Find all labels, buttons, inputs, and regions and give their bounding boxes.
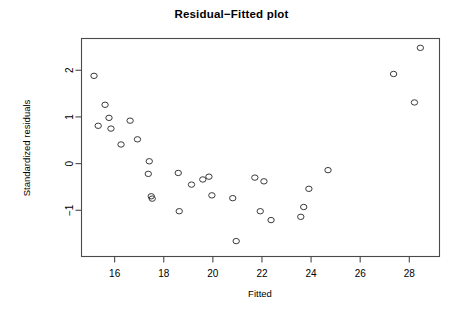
data-point — [95, 123, 101, 128]
data-point — [417, 45, 423, 50]
y-tick-label: −1 — [64, 204, 75, 216]
data-point — [268, 217, 274, 222]
data-point — [175, 170, 181, 175]
data-point — [188, 182, 194, 187]
y-axis-label: Standardized residuals — [21, 99, 32, 196]
data-point — [233, 238, 239, 243]
y-tick-label: 1 — [64, 114, 75, 120]
data-point — [306, 186, 312, 191]
data-point — [301, 204, 307, 209]
y-tick-label: 2 — [64, 67, 75, 73]
data-point — [134, 137, 140, 142]
data-point — [102, 102, 108, 107]
data-point — [176, 209, 182, 214]
x-tick-label: 18 — [158, 268, 170, 279]
chart-canvas: Residual−Fitted plot 16182022242628 210−… — [0, 0, 463, 311]
data-point — [127, 118, 133, 123]
data-point — [91, 73, 97, 78]
data-point — [390, 71, 396, 76]
x-tick-label: 26 — [355, 268, 367, 279]
chart-title: Residual−Fitted plot — [174, 8, 288, 20]
data-point — [411, 100, 417, 105]
data-points-layer — [91, 45, 424, 244]
x-axis-ticks: 16182022242628 — [109, 257, 415, 279]
y-tick-label: 0 — [64, 160, 75, 166]
x-tick-label: 28 — [404, 268, 416, 279]
data-point — [145, 171, 151, 176]
plot-frame — [82, 39, 440, 257]
data-point — [230, 195, 236, 200]
data-point — [146, 159, 152, 164]
residual-fitted-plot: Residual−Fitted plot 16182022242628 210−… — [0, 0, 463, 311]
x-tick-label: 16 — [109, 268, 121, 279]
data-point — [261, 179, 267, 184]
data-point — [257, 209, 263, 214]
data-point — [206, 174, 212, 179]
x-tick-label: 24 — [306, 268, 318, 279]
data-point — [106, 115, 112, 120]
x-tick-label: 20 — [207, 268, 219, 279]
y-axis-ticks: 210−1 — [64, 67, 82, 216]
x-axis-label: Fitted — [248, 288, 272, 299]
data-point — [325, 167, 331, 172]
data-point — [209, 193, 215, 198]
data-point — [200, 177, 206, 182]
data-point — [108, 126, 114, 131]
data-point — [252, 175, 258, 180]
data-point — [298, 214, 304, 219]
data-point — [118, 142, 124, 147]
x-tick-label: 22 — [256, 268, 268, 279]
